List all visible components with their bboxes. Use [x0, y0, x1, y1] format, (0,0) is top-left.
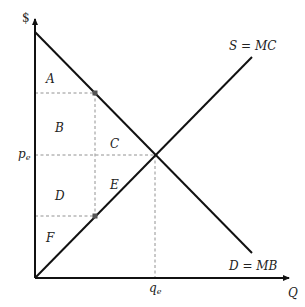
- region-e-label: E: [109, 178, 119, 192]
- y-axis-label: $: [22, 11, 30, 25]
- equilibrium-quantity-label: qe: [149, 281, 162, 296]
- demand-curve: [35, 32, 252, 253]
- supply-curve-label: S = MC: [229, 39, 276, 53]
- region-d-label: D: [54, 189, 65, 203]
- region-a-label: A: [45, 72, 55, 86]
- guide-lines: [35, 93, 155, 278]
- supply-curve: [35, 57, 252, 278]
- supply-point-marker: [93, 214, 98, 219]
- demand-point-marker: [93, 91, 98, 96]
- region-b-label: B: [54, 121, 64, 135]
- equilibrium-price-label: pe: [18, 147, 31, 162]
- region-f-label: F: [45, 231, 55, 245]
- supply-demand-diagram: $ Q S = MC D = MB pe qe A B C D E F: [0, 0, 305, 307]
- x-axis-label: Q: [288, 286, 298, 300]
- demand-curve-label: D = MB: [228, 259, 278, 273]
- region-c-label: C: [110, 137, 119, 151]
